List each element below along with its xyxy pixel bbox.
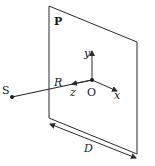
plane-label: P bbox=[54, 15, 62, 28]
z-axis-arrow bbox=[72, 80, 92, 84]
source-point bbox=[10, 95, 14, 99]
distance-r-label: R bbox=[53, 76, 62, 89]
origin-label: O bbox=[87, 86, 96, 99]
width-d-label: D bbox=[83, 142, 93, 155]
z-axis-label: z bbox=[69, 86, 76, 99]
origin-point bbox=[90, 78, 94, 82]
x-axis-label: x bbox=[114, 89, 121, 102]
y-axis-label: y bbox=[83, 47, 91, 60]
dimension-d-line bbox=[50, 124, 136, 158]
source-label: S bbox=[2, 84, 10, 97]
diagram-canvas: P S O y x z R D bbox=[0, 0, 155, 166]
